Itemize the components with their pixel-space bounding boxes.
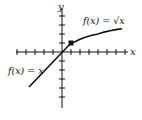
sqrt-curve	[71, 29, 122, 43]
linear-curve-label: f(x) = x	[7, 65, 44, 76]
y-axis-label: y	[57, 1, 64, 12]
x-axis-label: x	[130, 46, 136, 57]
y-axis	[59, 8, 65, 108]
junction-point	[69, 41, 74, 46]
sqrt-curve-label: f(x) = √x	[82, 15, 125, 26]
x-axis	[16, 49, 128, 55]
piecewise-function-graph: x y f(x) = √x f(x) = x	[0, 0, 142, 120]
